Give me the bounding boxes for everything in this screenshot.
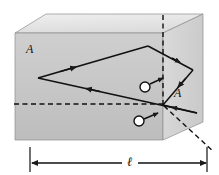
block-right-face — [163, 14, 203, 140]
block-solid — [15, 14, 203, 148]
optics-block-figure: A A ℓ — [0, 0, 219, 175]
angle-marker-upper-circle — [140, 82, 150, 92]
angle-marker-lower-circle — [134, 116, 144, 126]
face-label-A-left: A — [26, 43, 33, 55]
figure-canvas — [0, 0, 219, 175]
length-dimension — [30, 147, 207, 172]
face-label-A-right: A — [174, 87, 181, 99]
length-label-ell: ℓ — [125, 155, 134, 168]
